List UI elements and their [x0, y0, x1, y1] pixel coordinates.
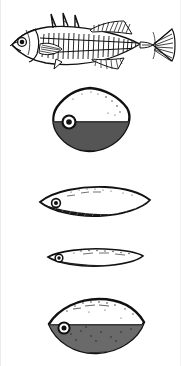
- figure-rhomboid-cross-section: Deep diamond or rhomboid body outline, u…: [49, 86, 133, 154]
- eye-pupil-icon: [20, 40, 25, 45]
- eye-pupil-icon: [66, 119, 72, 125]
- rhomboid-drawing: [49, 86, 133, 154]
- spine-membranes: [52, 21, 78, 24]
- figure-deep-oval-cross-section: Deep pointed oval or lens outline, pale …: [45, 296, 147, 356]
- figure-broad-lens-lateral: Broad elongate lens shape, pale dorsal s…: [37, 184, 153, 218]
- dorsal-spines-group: [51, 13, 79, 28]
- eye-pupil-icon: [57, 256, 60, 259]
- deep-oval-drawing: [45, 296, 147, 356]
- figure-stickleback-lateral: Three-spined stickleback in full lateral…: [6, 12, 177, 74]
- stickleback-drawing: [6, 12, 177, 74]
- figure-narrow-spindle-lateral: Slender spindle or fusiform outline, pal…: [45, 246, 145, 268]
- broad-lens-drawing: [37, 184, 153, 218]
- anal-fin-icon: [92, 58, 124, 69]
- illustration-plate: Three-spined stickleback in full lateral…: [0, 0, 181, 366]
- narrow-spindle-drawing: [45, 246, 145, 268]
- eye-pupil-icon: [54, 201, 58, 205]
- eye-pupil-icon: [62, 326, 67, 331]
